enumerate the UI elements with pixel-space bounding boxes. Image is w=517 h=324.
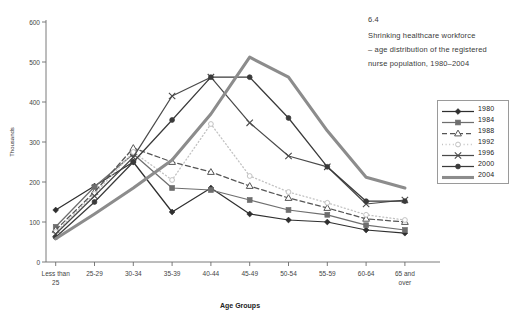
x-axis-tick-label: 35-39 <box>164 270 181 277</box>
legend-marker-2000-icon <box>441 158 475 169</box>
data-point-marker <box>286 208 291 213</box>
series-2004 <box>56 57 405 239</box>
legend-label-1980: 1980 <box>475 105 494 112</box>
data-point-marker <box>364 199 369 204</box>
data-point-marker <box>209 75 214 80</box>
x-axis-tick-label: 30-34 <box>125 270 142 277</box>
data-point-marker <box>131 160 136 165</box>
legend-item-1984: 1984 <box>441 114 505 125</box>
x-axis-tick-label: over <box>399 279 412 286</box>
legend-marker-1988-icon <box>441 125 475 136</box>
data-point-marker <box>286 190 291 195</box>
series-1980 <box>53 159 408 236</box>
y-axis-tick-label: 600 <box>29 19 40 26</box>
x-axis-title: Age Groups <box>220 302 260 310</box>
data-point-marker <box>92 200 97 205</box>
y-axis-tick-label: 300 <box>29 139 40 146</box>
legend-label-1984: 1984 <box>475 116 494 123</box>
legend-label-1988: 1988 <box>475 127 494 134</box>
data-point-marker <box>286 217 292 223</box>
x-axis-tick-label: Less than <box>42 270 71 277</box>
data-point-marker <box>325 164 330 169</box>
data-point-marker <box>209 122 214 127</box>
series-1996 <box>53 74 409 237</box>
x-axis-tick-label: 25-29 <box>86 270 103 277</box>
x-axis-tick-label: 40-44 <box>203 270 220 277</box>
data-point-marker <box>169 93 175 99</box>
series-line-2004 <box>56 57 405 239</box>
data-point-marker <box>403 218 408 223</box>
x-axis-tick-label: 45-49 <box>241 270 258 277</box>
y-axis-tick-label: 400 <box>29 99 40 106</box>
data-point-marker <box>247 120 253 126</box>
data-point-marker <box>325 212 330 217</box>
data-point-marker <box>324 219 330 225</box>
x-axis-tick-label: 55-59 <box>319 270 336 277</box>
legend-item-2000: 2000 <box>441 158 505 169</box>
legend-marker-1984-icon <box>441 114 475 125</box>
legend-item-1992: 1992 <box>441 136 505 147</box>
x-axis-tick-label: 65 and <box>395 270 415 277</box>
legend-item-1980: 1980 <box>441 103 505 114</box>
series-1988 <box>52 145 408 233</box>
data-point-marker <box>403 199 408 204</box>
legend-item-1996: 1996 <box>441 147 505 158</box>
legend-label-1992: 1992 <box>475 138 494 145</box>
legend-item-1988: 1988 <box>441 125 505 136</box>
y-axis-tick-label: 100 <box>29 219 40 226</box>
x-axis-tick-label: 60-64 <box>358 270 375 277</box>
y-axis-tick-label: 200 <box>29 179 40 186</box>
legend-label-2000: 2000 <box>475 160 494 167</box>
y-axis-tick-label: 0 <box>36 259 40 266</box>
data-point-marker <box>170 186 175 191</box>
data-point-marker <box>247 198 252 203</box>
data-point-marker <box>170 118 175 123</box>
x-axis-tick-label: 50-54 <box>280 270 297 277</box>
data-point-marker <box>247 75 252 80</box>
y-axis-title: Thousands <box>9 127 15 157</box>
chart-figure: 6.4 Shrinking healthcare workforce – age… <box>0 0 517 324</box>
chart-legend: 1980198419881992199620002004 <box>437 100 509 184</box>
data-point-marker <box>403 228 408 233</box>
data-point-marker <box>247 174 252 179</box>
x-axis-tick-label: 25 <box>52 279 60 286</box>
y-axis-tick-label: 500 <box>29 59 40 66</box>
data-point-marker <box>209 188 214 193</box>
data-point-marker <box>364 212 369 217</box>
series-line-1984 <box>56 154 405 230</box>
legend-marker-1992-icon <box>441 136 475 147</box>
data-point-marker <box>53 207 59 213</box>
legend-marker-2004-icon <box>441 169 475 180</box>
data-point-marker <box>286 116 291 121</box>
legend-marker-1980-icon <box>441 103 475 114</box>
series-line-2000 <box>56 77 405 237</box>
series-line-1980 <box>56 162 405 233</box>
legend-label-2004: 2004 <box>475 171 494 178</box>
legend-label-1996: 1996 <box>475 149 494 156</box>
legend-item-2004: 2004 <box>441 169 505 180</box>
data-point-marker <box>363 227 369 233</box>
data-point-marker <box>364 223 369 228</box>
legend-marker-1996-icon <box>441 147 475 158</box>
data-point-marker <box>325 200 330 205</box>
data-point-marker <box>170 178 175 183</box>
